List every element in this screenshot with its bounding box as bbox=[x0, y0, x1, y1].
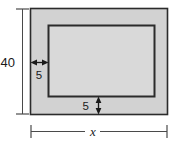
bottom-margin-label: 5 bbox=[83, 100, 89, 112]
left-margin-label: 5 bbox=[36, 69, 42, 81]
inner-rectangle bbox=[49, 26, 155, 97]
height-dimension-line bbox=[16, 9, 29, 114]
figure-canvas: 40 5 5 x bbox=[0, 0, 182, 145]
width-dimension-label: x bbox=[89, 124, 96, 139]
height-dimension-label: 40 bbox=[1, 55, 15, 70]
geometry-figure: 40 5 5 x bbox=[0, 0, 182, 145]
width-dimension-line bbox=[31, 125, 167, 138]
